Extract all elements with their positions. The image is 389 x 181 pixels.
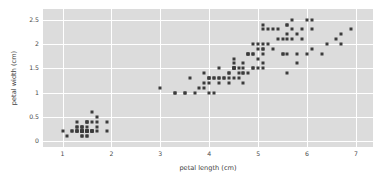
scatter-point <box>227 72 230 75</box>
scatter-point <box>105 120 108 123</box>
scatter-point <box>237 72 240 75</box>
scatter-point <box>86 130 89 133</box>
scatter-point <box>252 42 255 45</box>
scatter-point <box>213 77 216 80</box>
scatter-point <box>218 81 221 84</box>
scatter-point <box>95 115 98 118</box>
y-tick-label: 0 <box>35 138 39 144</box>
scatter-point <box>232 67 235 70</box>
scatter-point <box>227 77 230 80</box>
scatter-point <box>81 135 84 138</box>
gridline-vertical <box>63 9 64 147</box>
scatter-point <box>262 23 265 26</box>
scatter-point <box>61 130 64 133</box>
scatter-point <box>306 18 309 21</box>
y-tick-label: 2.5 <box>29 17 39 23</box>
scatter-point <box>291 38 294 41</box>
scatter-point <box>90 120 93 123</box>
scatter-point <box>242 72 245 75</box>
gridline-vertical <box>160 9 161 147</box>
scatter-point <box>262 52 265 55</box>
x-tick-label: 4 <box>207 151 211 157</box>
scatter-point <box>218 77 221 80</box>
x-tick-label: 3 <box>158 151 162 157</box>
scatter-point <box>174 91 177 94</box>
scatter-point <box>242 62 245 65</box>
scatter-point <box>222 77 225 80</box>
scatter-point <box>95 130 98 133</box>
scatter-point <box>237 77 240 80</box>
scatter-point <box>301 38 304 41</box>
scatter-point <box>227 81 230 84</box>
scatter-point <box>281 52 284 55</box>
y-tick-label: 0.5 <box>29 114 39 120</box>
scatter-point <box>301 28 304 31</box>
scatter-point <box>95 125 98 128</box>
scatter-point <box>306 52 309 55</box>
x-tick-label: 1 <box>61 151 65 157</box>
scatter-point <box>271 28 274 31</box>
x-tick-label: 7 <box>354 151 358 157</box>
scatter-point <box>232 57 235 60</box>
x-tick-label: 5 <box>256 151 260 157</box>
scatter-point <box>81 130 84 133</box>
scatter-point <box>95 120 98 123</box>
scatter-point <box>76 125 79 128</box>
scatter-point <box>188 77 191 80</box>
scatter-point <box>266 42 269 45</box>
scatter-point <box>183 91 186 94</box>
scatter-point <box>86 120 89 123</box>
scatter-point <box>213 91 216 94</box>
scatter-point <box>257 67 260 70</box>
scatter-point <box>86 135 89 138</box>
x-tick-label: 6 <box>305 151 309 157</box>
scatter-point <box>281 38 284 41</box>
scatter-point <box>310 18 313 21</box>
gridline-horizontal <box>43 141 373 142</box>
scatter-point <box>159 86 162 89</box>
scatter-point <box>335 38 338 41</box>
y-axis-label: petal width (cm) <box>11 51 18 105</box>
scatter-point <box>296 62 299 65</box>
scatter-point <box>232 62 235 65</box>
gridline-horizontal <box>43 68 373 69</box>
scatter-point <box>208 91 211 94</box>
scatter-point <box>66 135 69 138</box>
x-tick-label: 2 <box>109 151 113 157</box>
scatter-point <box>237 67 240 70</box>
scatter-point <box>252 67 255 70</box>
scatter-point <box>286 38 289 41</box>
y-tick-label: 2 <box>35 41 39 47</box>
scatter-point <box>247 52 250 55</box>
scatter-point <box>203 81 206 84</box>
scatter-point <box>71 130 74 133</box>
scatter-point <box>252 52 255 55</box>
y-tick-label: 1 <box>35 89 39 95</box>
scatter-point <box>242 67 245 70</box>
scatter-point <box>232 77 235 80</box>
scatter-point <box>266 28 269 31</box>
scatter-point <box>325 42 328 45</box>
scatter-point <box>203 72 206 75</box>
scatter-point <box>310 28 313 31</box>
scatter-point <box>242 81 245 84</box>
scatter-point <box>90 130 93 133</box>
scatter-point <box>262 62 265 65</box>
scatter-point <box>340 42 343 45</box>
scatter-point <box>105 130 108 133</box>
gridline-horizontal <box>43 20 373 21</box>
chart-figure: 1234567 00.511.522.5 petal length (cm) p… <box>0 0 389 181</box>
scatter-point <box>76 130 79 133</box>
scatter-point <box>286 23 289 26</box>
scatter-point <box>262 28 265 31</box>
scatter-point <box>218 67 221 70</box>
scatter-point <box>276 28 279 31</box>
gridline-horizontal <box>43 44 373 45</box>
scatter-point <box>310 47 313 50</box>
scatter-point <box>276 38 279 41</box>
scatter-point <box>271 47 274 50</box>
scatter-point <box>76 120 79 123</box>
scatter-point <box>198 86 201 89</box>
y-tick-label: 1.5 <box>29 65 39 71</box>
scatter-point <box>286 72 289 75</box>
